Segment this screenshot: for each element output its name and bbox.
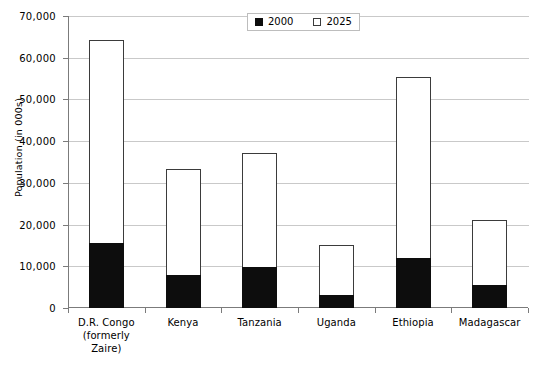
x-tick-label: Uganda [298, 316, 375, 329]
x-tick-label-line: Tanzania [221, 316, 298, 329]
bar-2000 [396, 258, 431, 308]
y-tick-label: 30,000 [19, 177, 56, 188]
bar-group [89, 16, 124, 308]
y-tick-mark [63, 266, 68, 267]
x-tick-mark [375, 308, 376, 313]
y-tick-mark [63, 225, 68, 226]
y-tick-label: 50,000 [19, 94, 56, 105]
y-tick-label: 70,000 [19, 11, 56, 22]
y-tick-mark [63, 58, 68, 59]
x-tick-mark [451, 308, 452, 313]
legend-label: 2025 [326, 16, 351, 27]
bar-group [166, 16, 201, 308]
y-tick-label: 20,000 [19, 219, 56, 230]
x-tick-mark [298, 308, 299, 313]
x-tick-label: Kenya [145, 316, 222, 329]
x-tick-label: Ethiopia [375, 316, 452, 329]
bar-2000 [472, 285, 507, 308]
x-tick-mark [528, 308, 529, 313]
bar-group [396, 16, 431, 308]
y-tick-label: 10,000 [19, 261, 56, 272]
x-tick-label-line: Zaire) [68, 342, 145, 355]
bar-group [472, 16, 507, 308]
x-tick-label-line: Kenya [145, 316, 222, 329]
x-tick-label: D.R. Congo(formerlyZaire) [68, 316, 145, 355]
legend: 2000 2025 [247, 13, 360, 31]
y-tick-mark [63, 141, 68, 142]
legend-swatch-icon [255, 18, 263, 26]
legend-label: 2000 [268, 16, 293, 27]
x-tick-label-line: Uganda [298, 316, 375, 329]
x-tick-label-line: Madagascar [451, 316, 528, 329]
x-tick-label: Madagascar [451, 316, 528, 329]
bar-2000 [89, 243, 124, 308]
x-tick-label-line: D.R. Congo [68, 316, 145, 329]
y-tick-label: 0 [49, 303, 56, 314]
legend-item-2025: 2025 [313, 16, 351, 27]
bar-2000 [242, 267, 277, 308]
legend-item-2000: 2000 [255, 16, 293, 27]
x-tick-label-line: (formerly [68, 329, 145, 342]
bar-2000 [166, 275, 201, 308]
legend-swatch-icon [313, 18, 321, 26]
x-tick-label: Tanzania [221, 316, 298, 329]
y-tick-mark [63, 99, 68, 100]
bar-group [242, 16, 277, 308]
x-tick-mark [145, 308, 146, 313]
y-tick-mark [63, 183, 68, 184]
y-tick-label: 60,000 [19, 52, 56, 63]
x-tick-mark [68, 308, 69, 313]
bar-2000 [319, 295, 354, 308]
bar-group [319, 16, 354, 308]
x-axis-tick-labels: D.R. Congo(formerlyZaire)KenyaTanzaniaUg… [68, 316, 528, 364]
x-axis-ticks [68, 308, 528, 314]
y-tick-mark [63, 308, 68, 309]
bars-container [68, 16, 528, 308]
y-axis-tick-labels: 010,00020,00030,00040,00050,00060,00070,… [0, 16, 62, 308]
bar-chart: Population (in 000s) 010,00020,00030,000… [0, 0, 534, 365]
y-tick-mark [63, 16, 68, 17]
x-tick-mark [221, 308, 222, 313]
y-tick-label: 40,000 [19, 136, 56, 147]
x-tick-label-line: Ethiopia [375, 316, 452, 329]
